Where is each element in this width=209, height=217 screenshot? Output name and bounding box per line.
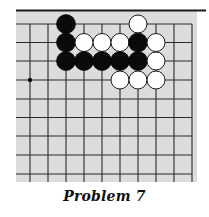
- black-stone: [57, 33, 76, 52]
- black-stone: [93, 52, 112, 71]
- white-stone: [129, 71, 147, 89]
- black-stone: [57, 15, 76, 34]
- star-point-icon: [28, 78, 32, 82]
- white-stone: [147, 34, 165, 52]
- white-stone: [147, 52, 165, 70]
- problem-caption: Problem 7: [0, 188, 209, 204]
- white-stone: [75, 34, 93, 52]
- white-stone: [111, 34, 129, 52]
- black-stone: [111, 52, 130, 71]
- white-stone: [147, 71, 165, 89]
- black-stone: [129, 52, 148, 71]
- white-stone: [93, 34, 111, 52]
- star-points: [28, 78, 32, 82]
- go-board: [0, 0, 209, 190]
- white-stone: [129, 15, 147, 33]
- white-stone: [111, 71, 129, 89]
- black-stone: [75, 52, 94, 71]
- black-stone: [129, 33, 148, 52]
- black-stone: [57, 52, 76, 71]
